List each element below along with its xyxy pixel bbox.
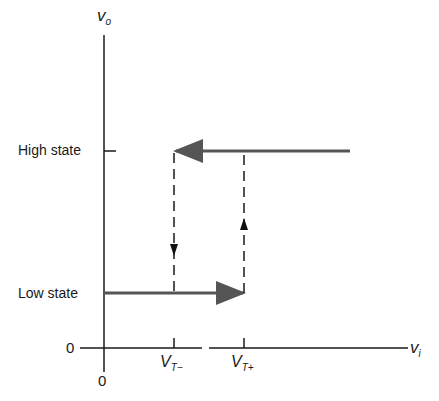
threshold-low-label: VT− <box>160 353 183 373</box>
y-axis-label: vo <box>97 6 111 27</box>
low-state-label: Low state <box>18 285 78 301</box>
x-zero-label: 0 <box>98 372 106 389</box>
threshold-high-label: VT+ <box>231 353 254 373</box>
y-zero-label: 0 <box>66 339 74 356</box>
high-state-label: High state <box>18 142 81 158</box>
x-axis-label: vi <box>410 338 421 359</box>
